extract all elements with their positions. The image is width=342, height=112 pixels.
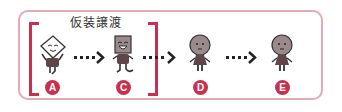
dotted-arrow-a-to-c-icon	[74, 50, 106, 64]
badge-c: C	[116, 80, 131, 95]
badge-a: A	[45, 80, 60, 95]
badge-e: E	[275, 80, 290, 95]
figure-a-icon	[37, 34, 67, 78]
dotted-arrow-d-to-e-icon	[226, 50, 258, 64]
figure-d-icon	[185, 34, 215, 78]
figure-c-icon	[108, 34, 138, 78]
group-title: 仮装譲渡	[62, 13, 130, 30]
badge-d: D	[193, 80, 208, 95]
figure-e-icon	[267, 34, 297, 78]
dotted-arrow-c-to-d-icon	[143, 50, 177, 64]
